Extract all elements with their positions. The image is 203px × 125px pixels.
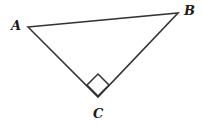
geometry-figure: A B C [0, 0, 203, 125]
vertex-label-c: C [93, 107, 103, 120]
triangle-abc-outline [28, 13, 178, 97]
right-angle-marker-icon [87, 74, 109, 96]
vertex-label-b: B [184, 4, 195, 17]
vertex-label-a: A [11, 19, 21, 32]
